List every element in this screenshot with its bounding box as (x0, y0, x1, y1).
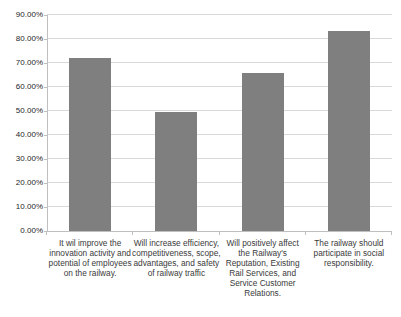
y-axis-tick-mark (44, 159, 48, 160)
y-axis-line (47, 15, 48, 232)
x-axis-tick-mark (132, 231, 133, 235)
y-axis-tick-label: 90.00% (0, 11, 43, 19)
bar (328, 31, 370, 231)
bar (155, 112, 197, 231)
y-axis-tick-mark (44, 135, 48, 136)
plot-area (47, 15, 392, 231)
x-axis-tick-mark (219, 231, 220, 235)
y-axis-tick-label: 60.00% (0, 83, 43, 91)
y-axis-tick-mark (44, 111, 48, 112)
category-label: The railway should participate in social… (297, 239, 401, 269)
y-axis-tick-label: 0.00% (0, 227, 43, 235)
y-axis-tick-label: 30.00% (0, 155, 43, 163)
y-axis-tick-mark (44, 87, 48, 88)
y-axis-tick-label: 50.00% (0, 107, 43, 115)
x-axis-tick-mark (305, 231, 306, 235)
y-axis-tick-label: 70.00% (0, 59, 43, 67)
y-axis-tick-label: 80.00% (0, 35, 43, 43)
bar (69, 58, 111, 231)
x-axis-tick-mark (391, 231, 392, 235)
bar-chart: 0.00%10.00%20.00%30.00%40.00%50.00%60.00… (0, 0, 401, 317)
y-axis-tick-mark (44, 183, 48, 184)
y-axis-tick-mark (44, 207, 48, 208)
y-axis-tick-mark (44, 63, 48, 64)
y-axis-tick-mark (44, 15, 48, 16)
y-axis-tick-mark (44, 39, 48, 40)
gridline (47, 14, 392, 15)
y-axis-tick-label: 20.00% (0, 179, 43, 187)
x-axis-tick-mark (46, 231, 47, 235)
bar (242, 73, 284, 231)
y-axis-tick-label: 40.00% (0, 131, 43, 139)
y-axis-tick-label: 10.00% (0, 203, 43, 211)
